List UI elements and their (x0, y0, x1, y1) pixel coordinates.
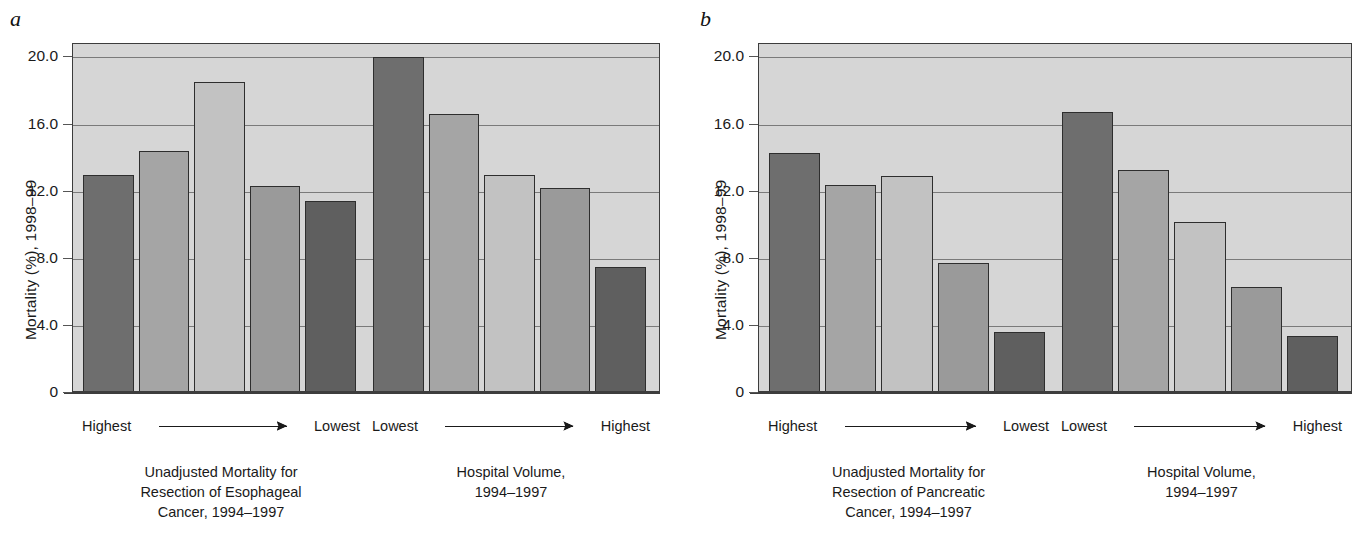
bar (373, 57, 424, 391)
axis-direction-arrow-group: LowestHighest (1061, 418, 1342, 434)
y-tick-label: 16.0 (684, 115, 744, 133)
group-caption: Unadjusted Mortality for Resection of Es… (91, 462, 351, 522)
axis-label-left: Lowest (1061, 418, 1107, 434)
axis-label-right: Lowest (314, 418, 360, 434)
bar (1062, 112, 1113, 391)
y-tick-label: 20.0 (0, 47, 58, 65)
arrow-right-icon (1134, 426, 1265, 427)
y-tick-mark (63, 56, 72, 57)
bar (769, 153, 820, 391)
y-tick-label: 0 (684, 383, 744, 401)
y-tick-mark (749, 258, 758, 259)
figure-container: aMortality (%), 1998–9920.016.012.08.04.… (0, 0, 1363, 534)
axis-label-left: Lowest (372, 418, 418, 434)
bar (1118, 170, 1169, 391)
y-tick-mark (63, 258, 72, 259)
gridline (73, 57, 659, 58)
axis-label-right: Highest (601, 418, 650, 434)
y-tick-mark (63, 392, 72, 393)
group-caption: Unadjusted Mortality for Resection of Pa… (779, 462, 1039, 522)
bar (1231, 287, 1282, 391)
y-tick-mark (749, 325, 758, 326)
plot-area-a (72, 43, 660, 392)
y-tick-label: 8.0 (684, 249, 744, 267)
axis-label-right: Highest (1293, 418, 1342, 434)
plot-area-b (758, 43, 1352, 392)
bar (938, 263, 989, 391)
y-tick-label: 16.0 (0, 115, 58, 133)
y-tick-label: 4.0 (684, 316, 744, 334)
bar (429, 114, 480, 391)
y-tick-mark (749, 56, 758, 57)
axis-label-left: Highest (82, 418, 131, 434)
axis-label-left: Highest (768, 418, 817, 434)
y-tick-mark (63, 325, 72, 326)
y-tick-label: 12.0 (0, 182, 58, 200)
y-tick-mark (749, 191, 758, 192)
bar (83, 175, 134, 391)
y-tick-label: 12.0 (684, 182, 744, 200)
y-tick-label: 4.0 (0, 316, 58, 334)
bar (825, 185, 876, 391)
group-caption: Hospital Volume, 1994–1997 (1072, 462, 1332, 502)
axis-label-right: Lowest (1003, 418, 1049, 434)
arrow-right-icon (845, 426, 976, 427)
gridline (73, 125, 659, 126)
bar (194, 82, 245, 391)
axis-direction-arrow-group: LowestHighest (372, 418, 650, 434)
y-tick-label: 20.0 (684, 47, 744, 65)
group-caption: Hospital Volume, 1994–1997 (381, 462, 641, 502)
y-tick-mark (749, 124, 758, 125)
x-axis-baseline (64, 392, 660, 394)
arrow-right-icon (445, 426, 573, 427)
gridline (759, 57, 1351, 58)
gridline (759, 125, 1351, 126)
y-tick-label: 0 (0, 383, 58, 401)
panel-letter-a: a (10, 6, 21, 32)
bar (540, 188, 591, 391)
bar (484, 175, 535, 391)
panel-letter-b: b (700, 6, 711, 32)
panel-b: bMortality (%), 1998–9920.016.012.08.04.… (681, 0, 1362, 534)
bar (1174, 222, 1225, 391)
bar (994, 332, 1045, 391)
bar (881, 176, 932, 391)
x-axis-baseline (750, 392, 1352, 394)
y-tick-label: 8.0 (0, 249, 58, 267)
bar (1287, 336, 1338, 391)
bar (305, 201, 356, 391)
y-tick-mark (749, 392, 758, 393)
bar (250, 186, 301, 391)
arrow-right-icon (159, 426, 287, 427)
panel-a: aMortality (%), 1998–9920.016.012.08.04.… (0, 0, 681, 534)
axis-direction-arrow-group: HighestLowest (768, 418, 1049, 434)
y-tick-mark (63, 124, 72, 125)
axis-direction-arrow-group: HighestLowest (82, 418, 360, 434)
y-tick-mark (63, 191, 72, 192)
bar (595, 267, 646, 391)
bar (139, 151, 190, 391)
